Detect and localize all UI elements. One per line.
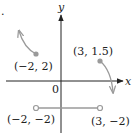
right-curve bbox=[97, 58, 113, 92]
closed-point-icon bbox=[97, 58, 102, 63]
point-label-3-1.5: (3, 1.5) bbox=[73, 45, 113, 58]
middle-segment bbox=[34, 106, 103, 111]
figure-marker: . bbox=[1, 5, 5, 18]
origin-label: 0 bbox=[52, 83, 59, 96]
left-curve bbox=[19, 31, 39, 57]
open-point-icon bbox=[34, 106, 39, 111]
closed-point-icon bbox=[33, 51, 38, 56]
x-axis-label: x bbox=[125, 75, 132, 88]
point-label-neg2-2: (−2, 2) bbox=[14, 60, 53, 73]
point-label-neg2-neg2: (−2, −2) bbox=[7, 113, 55, 126]
y-axis-label: y bbox=[57, 1, 65, 14]
piecewise-graph: . x y 0 (−2, 2) (3, 1.5) (−2, −2) (3, −2… bbox=[0, 0, 137, 139]
open-point-icon bbox=[98, 106, 103, 111]
point-label-3-neg2: (3, −2) bbox=[91, 115, 130, 128]
